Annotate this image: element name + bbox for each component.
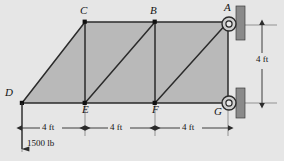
support-plate-g	[236, 88, 245, 118]
node-label-D: D	[5, 87, 13, 98]
truss-diagram: C B A D E F G 4 ft 4 ft 4 ft 4 ft 1500 l…	[0, 0, 284, 161]
dimension-label-de: 4 ft	[42, 123, 54, 132]
dimension-label-ag: 4 ft	[256, 55, 268, 64]
joint-marker-C	[83, 20, 87, 24]
dimension-label-ef: 4 ft	[110, 123, 122, 132]
node-label-E: E	[82, 104, 89, 115]
support-pin-a-inner	[226, 21, 232, 27]
node-label-C: C	[80, 5, 87, 16]
node-label-B: B	[150, 5, 157, 16]
support-plate-a	[236, 6, 245, 40]
node-label-G: G	[214, 106, 222, 117]
truss-drawing-canvas	[0, 0, 284, 161]
dimension-label-fg: 4 ft	[182, 123, 194, 132]
node-label-F: F	[152, 104, 159, 115]
joint-marker-B	[153, 20, 157, 24]
node-label-A: A	[224, 2, 231, 13]
load-label-1500lb: 1500 lb	[27, 139, 54, 148]
support-roller-g-inner	[226, 100, 232, 106]
